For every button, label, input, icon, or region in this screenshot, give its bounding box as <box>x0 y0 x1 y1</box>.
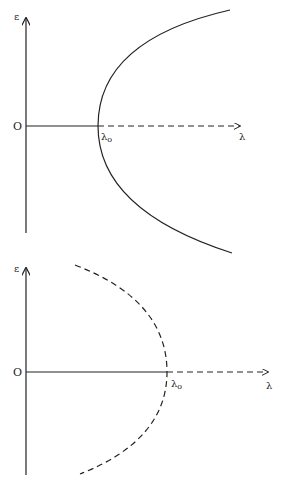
bottom-critical-label: λo <box>171 378 182 391</box>
bottom-epsilon-label: ε <box>14 263 19 274</box>
top-lambda-label: λ <box>239 131 246 142</box>
bottom-parabola-curve <box>75 265 167 474</box>
top-origin-label: O <box>13 120 22 133</box>
bottom-lambda-label: λ <box>266 380 273 391</box>
bifurcation-diagrams: ε O λ λo ε O λ λo <box>0 0 284 485</box>
top-diagram: ε O λ λo <box>13 10 246 253</box>
top-parabola-curve <box>98 10 232 253</box>
top-epsilon-label: ε <box>14 11 19 22</box>
bottom-origin-label: O <box>13 366 22 379</box>
bottom-diagram: ε O λ λo <box>13 263 273 475</box>
top-critical-label: λo <box>101 131 112 144</box>
